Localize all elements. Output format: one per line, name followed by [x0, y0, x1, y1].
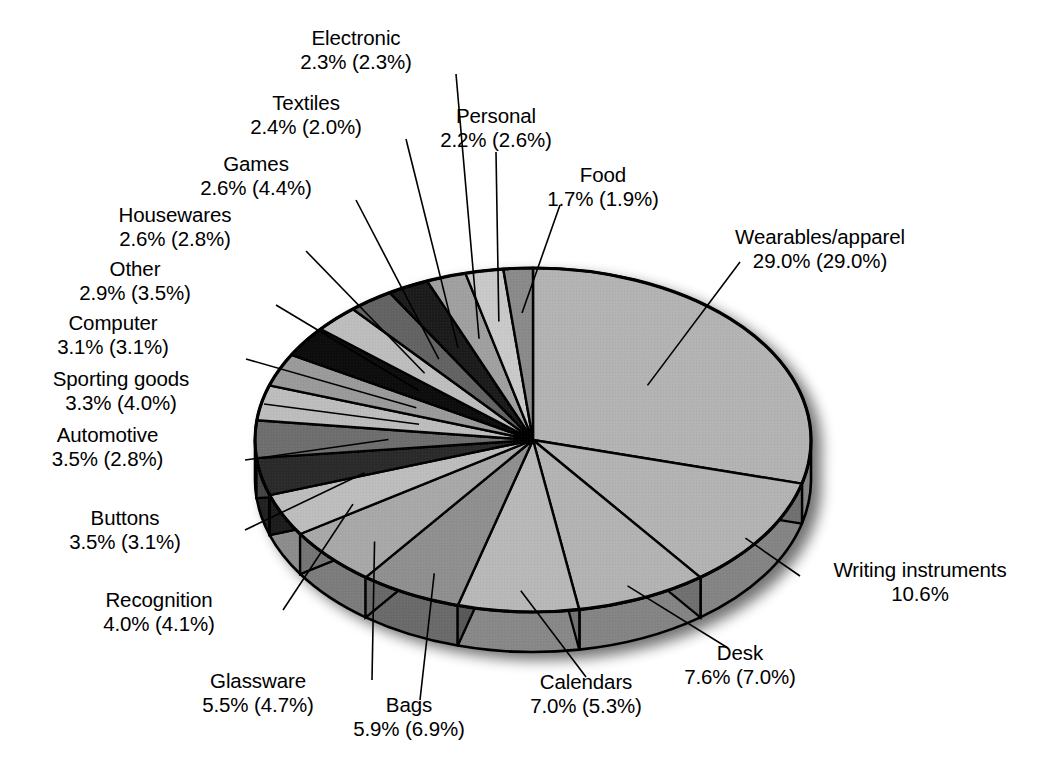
- label-buttons: Buttons 3.5% (3.1%): [20, 506, 230, 554]
- label-games: Games 2.6% (4.4%): [146, 152, 366, 200]
- label-calendars-value: 7.0% (5.3%): [486, 694, 686, 718]
- label-bags: Bags 5.9% (6.9%): [324, 693, 494, 741]
- label-food: Food 1.7% (1.9%): [508, 163, 698, 211]
- label-computer-value: 3.1% (3.1%): [8, 335, 218, 359]
- label-electronic-value: 2.3% (2.3%): [246, 50, 466, 74]
- label-electronic-name: Electronic: [246, 26, 466, 50]
- label-textiles-name: Textiles: [196, 91, 416, 115]
- label-desk-value: 7.6% (7.0%): [650, 665, 830, 689]
- label-other-value: 2.9% (3.5%): [30, 281, 240, 305]
- label-bags-name: Bags: [324, 693, 494, 717]
- label-games-name: Games: [146, 152, 366, 176]
- label-sporting-goods-value: 3.3% (4.0%): [6, 391, 236, 415]
- label-writing-instruments-value: 10.6%: [800, 582, 1039, 606]
- label-wearables-apparel-value: 29.0% (29.0%): [690, 249, 950, 273]
- label-housewares-value: 2.6% (2.8%): [60, 227, 290, 251]
- label-automotive: Automotive 3.5% (2.8%): [0, 423, 215, 471]
- label-sporting-goods-name: Sporting goods: [6, 367, 236, 391]
- label-textiles: Textiles 2.4% (2.0%): [196, 91, 416, 139]
- label-buttons-value: 3.5% (3.1%): [20, 530, 230, 554]
- label-personal-value: 2.2% (2.6%): [396, 128, 596, 152]
- label-sporting-goods: Sporting goods 3.3% (4.0%): [6, 367, 236, 415]
- label-automotive-name: Automotive: [0, 423, 215, 447]
- label-textiles-value: 2.4% (2.0%): [196, 115, 416, 139]
- label-recognition-value: 4.0% (4.1%): [50, 612, 268, 636]
- label-games-value: 2.6% (4.4%): [146, 176, 366, 200]
- label-wearables-apparel: Wearables/apparel 29.0% (29.0%): [690, 225, 950, 273]
- label-computer-name: Computer: [8, 311, 218, 335]
- pie-top-faces: [255, 268, 811, 612]
- label-recognition: Recognition 4.0% (4.1%): [50, 588, 268, 636]
- label-other-name: Other: [30, 257, 240, 281]
- label-electronic: Electronic 2.3% (2.3%): [246, 26, 466, 74]
- label-glassware-name: Glassware: [148, 669, 368, 693]
- label-recognition-name: Recognition: [50, 588, 268, 612]
- label-personal: Personal 2.2% (2.6%): [396, 104, 596, 152]
- label-housewares: Housewares 2.6% (2.8%): [60, 203, 290, 251]
- label-food-value: 1.7% (1.9%): [508, 187, 698, 211]
- pie-chart-figure: Electronic 2.3% (2.3%) Textiles 2.4% (2.…: [0, 0, 1039, 778]
- label-computer: Computer 3.1% (3.1%): [8, 311, 218, 359]
- label-writing-instruments: Writing instruments 10.6%: [800, 558, 1039, 606]
- label-writing-instruments-name: Writing instruments: [800, 558, 1039, 582]
- label-other: Other 2.9% (3.5%): [30, 257, 240, 305]
- label-housewares-name: Housewares: [60, 203, 290, 227]
- label-wearables-apparel-name: Wearables/apparel: [690, 225, 950, 249]
- label-personal-name: Personal: [396, 104, 596, 128]
- label-buttons-name: Buttons: [20, 506, 230, 530]
- label-bags-value: 5.9% (6.9%): [324, 717, 494, 741]
- label-food-name: Food: [508, 163, 698, 187]
- label-automotive-value: 3.5% (2.8%): [0, 447, 215, 471]
- label-desk-name: Desk: [650, 641, 830, 665]
- label-desk: Desk 7.6% (7.0%): [650, 641, 830, 689]
